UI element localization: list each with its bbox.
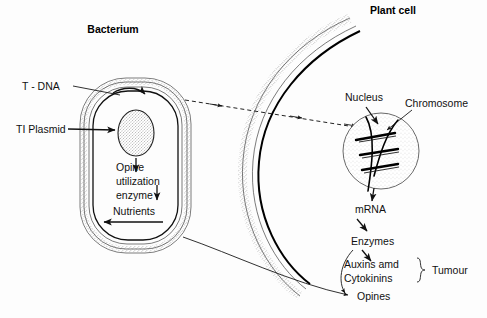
plant-cell-title: Plant cell — [370, 4, 416, 16]
ti-plasmid-body — [118, 110, 154, 156]
label-nutrients: Nutrients — [113, 205, 155, 217]
label-mrna: mRNA — [355, 203, 386, 215]
label-chromosome: Chromosome — [405, 97, 468, 109]
agrobacterium-ti-plasmid-diagram: Bacterium T - DNA TI Plasmid Opine utili… — [0, 0, 487, 318]
label-opine-line1: Opine — [116, 161, 144, 173]
label-tumour: Tumour — [432, 264, 468, 276]
label-ti-plasmid: TI Plasmid — [16, 123, 66, 135]
label-opine-line2: utilization — [116, 175, 160, 187]
label-nucleus: Nucleus — [345, 91, 383, 103]
label-opine-line3: enzyme — [116, 189, 153, 201]
label-opines: Opines — [357, 290, 390, 302]
label-auxins: Auxins amd — [344, 258, 399, 270]
label-t-dna: T - DNA — [22, 80, 60, 92]
label-enzymes: Enzymes — [351, 235, 394, 247]
bacterium-title: Bacterium — [87, 23, 138, 35]
diagram-canvas: Bacterium T - DNA TI Plasmid Opine utili… — [0, 0, 487, 318]
label-cytokinins: Cytokinins — [344, 272, 392, 284]
